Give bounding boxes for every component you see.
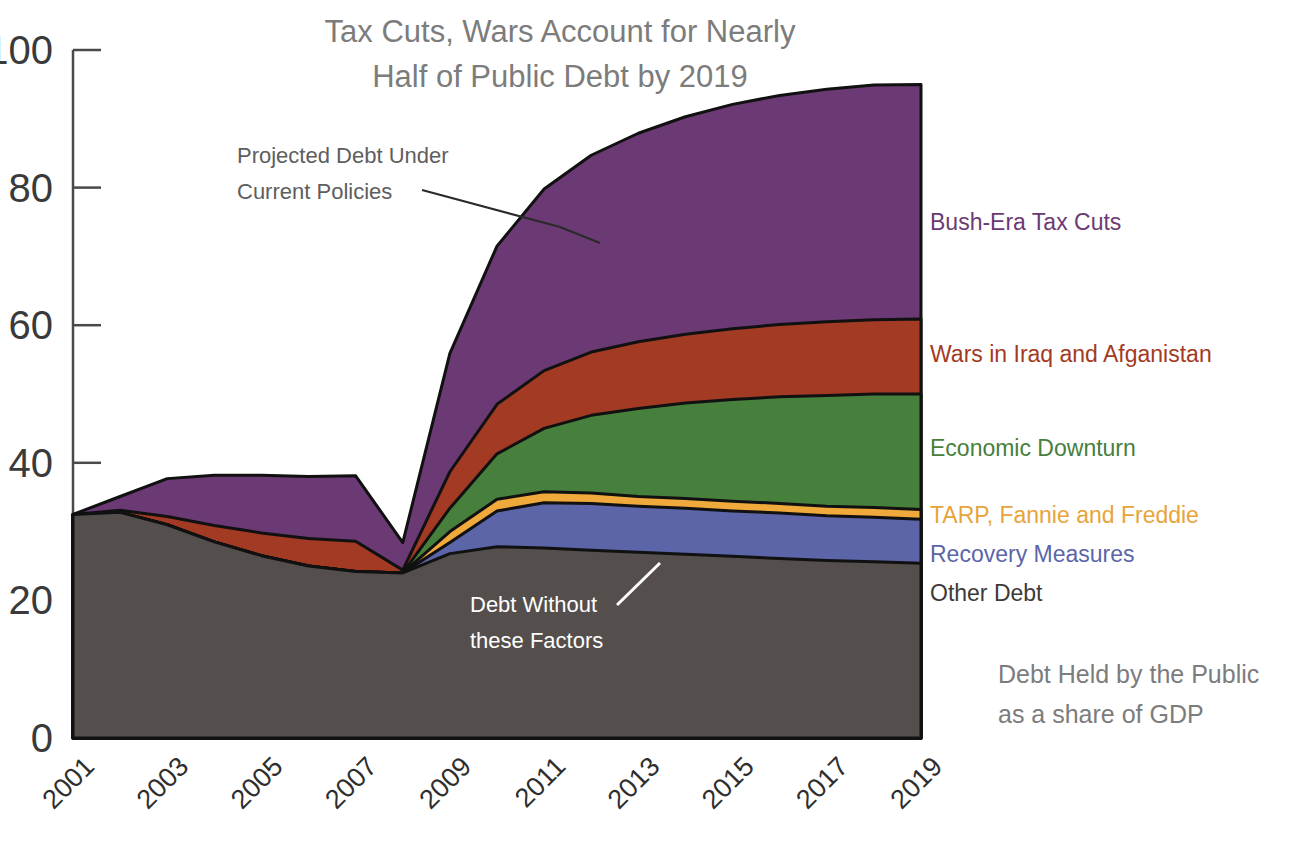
chart-caption-line-2: as a share of GDP xyxy=(998,700,1204,728)
chart-caption: Debt Held by the Public as a share of GD… xyxy=(998,660,1259,728)
y-tick-label-0: 0 xyxy=(31,716,53,760)
series-label-wars-in-iraq-and-afganistan: Wars in Iraq and Afganistan xyxy=(930,341,1212,367)
chart-title-line-1: Tax Cuts, Wars Account for Nearly xyxy=(325,14,796,49)
x-tick-label-2019: 2019 xyxy=(885,751,949,815)
series-label-bush-era-tax-cuts: Bush-Era Tax Cuts xyxy=(930,209,1121,235)
x-tick-label-2013: 2013 xyxy=(602,751,666,815)
y-tick-label-100: 100 xyxy=(0,28,53,72)
chart-caption-line-1: Debt Held by the Public xyxy=(998,660,1259,688)
x-tick-label-2017: 2017 xyxy=(790,751,854,815)
x-tick-label-2015: 2015 xyxy=(696,751,760,815)
annotation-projected-debt-line-2: Current Policies xyxy=(237,179,392,204)
y-tick-label-80: 80 xyxy=(9,166,54,210)
x-tick-label-2007: 2007 xyxy=(319,751,383,815)
x-tick-label-2005: 2005 xyxy=(225,751,289,815)
annotation-debt-without-line-2: these Factors xyxy=(470,628,603,653)
y-tick-label-60: 60 xyxy=(9,303,54,347)
x-tick-label-2003: 2003 xyxy=(131,751,195,815)
annotation-projected-debt-line-1: Projected Debt Under xyxy=(237,143,449,168)
y-tick-label-40: 40 xyxy=(9,441,54,485)
chart-title-line-2: Half of Public Debt by 2019 xyxy=(372,59,748,94)
annotation-debt-without-line-1: Debt Without xyxy=(470,592,597,617)
chart-title: Tax Cuts, Wars Account for Nearly Half o… xyxy=(325,14,796,94)
stacked-area-chart: Tax Cuts, Wars Account for Nearly Half o… xyxy=(0,0,1308,844)
series-label-other-debt: Other Debt xyxy=(930,580,1043,606)
chart-canvas: Tax Cuts, Wars Account for Nearly Half o… xyxy=(0,0,1308,844)
series-label-tarp-fannie-and-freddie: TARP, Fannie and Freddie xyxy=(930,502,1199,528)
x-tick-label-2009: 2009 xyxy=(413,751,477,815)
x-axis: 2001200320052007200920112013201520172019 xyxy=(37,751,949,815)
series-label-recovery-measures: Recovery Measures xyxy=(930,541,1135,567)
x-tick-label-2011: 2011 xyxy=(509,751,571,813)
series-label-economic-downturn: Economic Downturn xyxy=(930,435,1136,461)
x-tick-label-2001: 2001 xyxy=(37,751,101,815)
series-legend: Other DebtRecovery MeasuresTARP, Fannie … xyxy=(930,209,1212,606)
y-tick-label-20: 20 xyxy=(9,578,54,622)
